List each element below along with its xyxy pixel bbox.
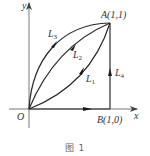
point-b-label: B(1,0) bbox=[97, 115, 122, 125]
path-l2-label-sub: 2 bbox=[79, 54, 83, 62]
origin-label: O bbox=[17, 112, 24, 122]
arrow-ob-icon bbox=[83, 107, 92, 111]
path-l3 bbox=[29, 23, 110, 109]
diagram-canvas bbox=[0, 0, 150, 156]
path-l2 bbox=[29, 23, 110, 109]
path-l3-label-sub: 3 bbox=[54, 33, 58, 41]
arrow-l3-icon bbox=[51, 41, 57, 48]
arrow-l4-icon bbox=[108, 68, 112, 76]
path-l4-label: L4 bbox=[115, 68, 124, 80]
x-axis-label: x bbox=[134, 111, 138, 121]
line-integral-path-diagram: y x O A(1,1) B(1,0) L3 L2 L1 L4 图 1 bbox=[0, 0, 150, 156]
path-l1-label-sub: 1 bbox=[92, 78, 96, 86]
figure-caption: 图 1 bbox=[0, 141, 150, 154]
path-l3-label: L3 bbox=[48, 29, 57, 41]
path-l2-label: L2 bbox=[73, 50, 82, 62]
y-axis-label: y bbox=[22, 1, 26, 11]
path-l4-label-sub: 4 bbox=[121, 72, 125, 80]
path-l1-label: L1 bbox=[86, 74, 95, 86]
point-a-label: A(1,1) bbox=[101, 10, 126, 20]
path-l1 bbox=[29, 23, 110, 109]
